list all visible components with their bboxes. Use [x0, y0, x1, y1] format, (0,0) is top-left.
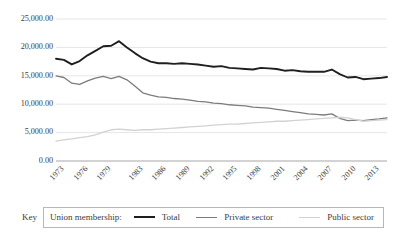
x-axis-tick-labels: 1973197619791983198619891992199519982001…: [0, 0, 398, 196]
chart-figure: 0.005,000.0010,000.0015,000.0020,000.002…: [0, 0, 398, 237]
legend-title: Union membership:: [50, 212, 122, 222]
x-axis-tick-label: 1989: [165, 165, 192, 192]
legend-swatch-total: [134, 216, 155, 218]
legend-entry-total: Total: [134, 212, 180, 222]
x-axis-tick-label: 1979: [86, 165, 113, 192]
x-axis-tick-label: 2007: [307, 165, 334, 192]
key-label: Key: [22, 212, 37, 222]
legend-label-private-sector: Private sector: [224, 212, 273, 222]
legend-swatch-private-sector: [196, 217, 217, 218]
legend-box: Union membership: Total Private sector P…: [43, 207, 384, 228]
legend-label-total: Total: [162, 212, 180, 222]
x-axis-tick-label: 1995: [212, 165, 239, 192]
x-axis-tick-label: 1973: [39, 165, 66, 192]
x-axis-tick-label: 2013: [354, 165, 381, 192]
x-axis-tick-label: 2004: [283, 165, 310, 192]
x-axis-tick-label: 1983: [118, 165, 145, 192]
legend-entry-private-sector: Private sector: [196, 212, 273, 222]
x-axis-tick-label: 1992: [189, 165, 216, 192]
chart-plot-region: 0.005,000.0010,000.0015,000.0020,000.002…: [0, 0, 398, 196]
x-axis-tick-label: 1976: [62, 165, 89, 192]
x-axis-tick-label: 2010: [330, 165, 357, 192]
legend-label-public-sector: Public sector: [327, 212, 374, 222]
legend-swatch-public-sector: [299, 217, 320, 218]
chart-key-row: Key Union membership: Total Private sect…: [0, 198, 398, 236]
x-axis-tick-label: 2001: [259, 165, 286, 192]
legend-entry-public-sector: Public sector: [299, 212, 374, 222]
x-axis-tick-label: 1998: [236, 165, 263, 192]
x-axis-tick-label: 1986: [141, 165, 168, 192]
